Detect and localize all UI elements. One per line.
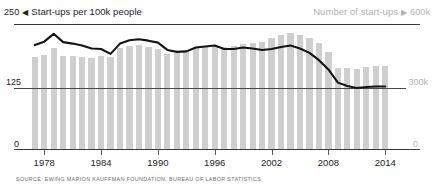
x-axis-tick-label: 2008 <box>318 157 339 168</box>
x-axis-tick-label: 2002 <box>261 157 282 168</box>
triangle-left-icon: ◀ <box>22 9 28 17</box>
chart-container: 250 ◀ Start-ups per 100k people Number o… <box>0 0 434 194</box>
x-axis-tick <box>272 150 273 155</box>
y-axis-left-mid-label: 125 <box>6 77 21 87</box>
source-note: SOURCE: EWING MARION KAUFFMAN FOUNDATION… <box>16 176 261 182</box>
x-axis-tick-label: 1990 <box>147 157 168 168</box>
x-axis-tick-label: 2014 <box>375 157 396 168</box>
x-axis-tick <box>385 150 386 155</box>
x-axis-tick <box>328 150 329 155</box>
x-axis-tick-label: 1984 <box>91 157 112 168</box>
x-axis-tick-label: 1996 <box>204 157 225 168</box>
x-axis-tick-label: 1978 <box>34 157 55 168</box>
x-axis-tick <box>44 150 45 155</box>
y-axis-left-zero-label: 0 <box>14 139 19 149</box>
triangle-right-icon: ▶ <box>401 9 407 17</box>
left-axis-max-label: 250 <box>4 7 19 17</box>
right-axis-max-label: 600k <box>410 7 430 17</box>
plot-area <box>30 27 390 149</box>
x-axis-tick <box>101 150 102 155</box>
y-axis-right-zero-label: 0 <box>413 139 418 149</box>
line-series <box>30 13 390 153</box>
x-axis-tick <box>158 150 159 155</box>
x-axis-tick <box>215 150 216 155</box>
x-axis-line <box>14 149 420 150</box>
y-axis-right-mid-label: 300k <box>408 77 428 87</box>
